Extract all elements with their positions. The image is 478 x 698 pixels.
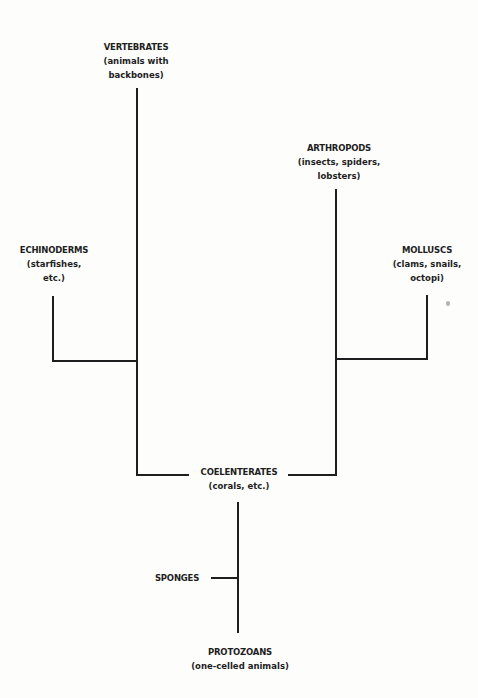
vertebrates-name: VERTEBRATES (104, 40, 169, 54)
node-coelenterates: COELENTERATES (corals, etc.) (201, 465, 278, 493)
molluscs-name: MOLLUSCS (393, 243, 462, 257)
molluscs-desc: (clams, snails, (393, 257, 462, 271)
node-sponges: SPONGES (155, 571, 199, 585)
vertebrates-desc: (animals with (104, 54, 169, 68)
coelenterates-name: COELENTERATES (201, 465, 278, 479)
arthropods-desc: (insects, spiders, (298, 155, 380, 169)
echinoderms-desc-2: etc.) (20, 271, 88, 285)
node-vertebrates: VERTEBRATES (animals with backbones) (104, 40, 169, 82)
arthropods-name: ARTHROPODS (298, 141, 380, 155)
node-protozoans: PROTOZOANS (one-celled animals) (191, 645, 289, 673)
echinoderms-name: ECHINODERMS (20, 243, 88, 257)
protozoans-name: PROTOZOANS (191, 645, 289, 659)
node-arthropods: ARTHROPODS (insects, spiders, lobsters) (298, 141, 380, 183)
protozoans-desc: (one-celled animals) (191, 659, 289, 673)
molluscs-desc-2: octopi) (393, 271, 462, 285)
scan-artifact (446, 301, 450, 306)
tree-lines (0, 0, 478, 698)
vertebrates-desc-2: backbones) (104, 68, 169, 82)
node-echinoderms: ECHINODERMS (starfishes, etc.) (20, 243, 88, 285)
coelenterates-desc: (corals, etc.) (201, 479, 278, 493)
echinoderms-desc: (starfishes, (20, 257, 88, 271)
arthropods-desc-2: lobsters) (298, 169, 380, 183)
sponges-name: SPONGES (155, 571, 199, 585)
node-molluscs: MOLLUSCS (clams, snails, octopi) (393, 243, 462, 285)
